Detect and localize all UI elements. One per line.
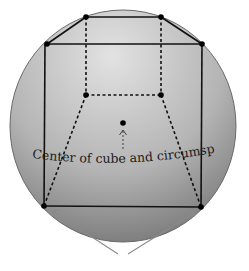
vertex-bottom-back-right — [158, 92, 164, 98]
edge-front-right — [201, 44, 202, 207]
vertex-bottom-back-left — [83, 92, 89, 98]
edge-front-left — [44, 44, 45, 206]
vertex-bottom-front-left — [41, 203, 47, 209]
vertex-top-front-left — [44, 41, 50, 47]
vertex-top-back-right — [158, 14, 164, 20]
center-point — [120, 120, 126, 126]
cube-in-circumsphere-diagram: Center of cube and circumsphere — [0, 0, 249, 271]
vertex-bottom-front-right — [198, 204, 204, 210]
edge-bottom-front — [44, 206, 201, 207]
vertex-top-front-right — [199, 41, 205, 47]
vertex-top-back-left — [83, 14, 89, 20]
